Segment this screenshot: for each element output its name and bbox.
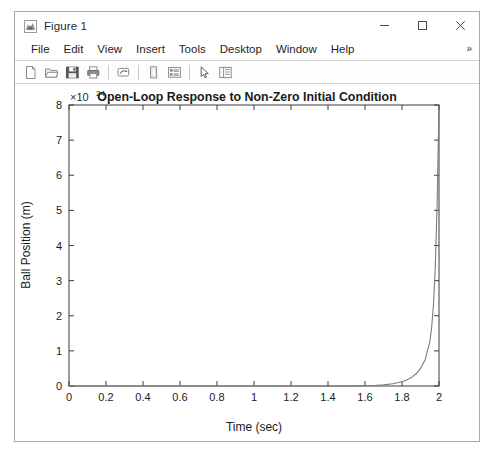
- x-tick-label: 0.8: [209, 391, 224, 403]
- chart-title: Open-Loop Response to Non-Zero Initial C…: [97, 90, 396, 104]
- x-tick-label: 1.4: [320, 391, 335, 403]
- x-tick-label: 1.8: [394, 391, 409, 403]
- y-tick-label: 4: [56, 240, 62, 252]
- menu-item-insert[interactable]: Insert: [129, 42, 172, 57]
- y-tick-label: 3: [56, 275, 62, 287]
- y-tick-label: 5: [56, 204, 62, 216]
- menu-item-edit[interactable]: Edit: [57, 42, 91, 57]
- x-axis-label: Time (sec): [226, 420, 282, 434]
- maximize-button[interactable]: [403, 12, 441, 39]
- y-tick-label: 2: [56, 310, 62, 322]
- print-figure-icon[interactable]: [83, 62, 103, 82]
- toolbar-separator-1: [108, 65, 109, 80]
- menu-overflow-icon[interactable]: »: [466, 43, 472, 54]
- y-tick-label: 7: [56, 134, 62, 146]
- save-figure-icon[interactable]: [62, 62, 82, 82]
- minimize-button[interactable]: [365, 12, 403, 39]
- insert-legend-icon[interactable]: [164, 62, 184, 82]
- axes-ticks: 00.20.40.60.811.21.41.61.82012345678: [56, 99, 442, 403]
- menu-item-desktop[interactable]: Desktop: [213, 42, 269, 57]
- y-tick-label: 6: [56, 169, 62, 181]
- matlab-membrane-icon: [24, 19, 37, 32]
- x-tick-label: 0.6: [172, 391, 187, 403]
- figure-window: Figure 1: [14, 11, 480, 442]
- series-line-ball-position: [69, 105, 439, 386]
- window-title: Figure 1: [44, 20, 87, 32]
- y-tick-label: 1: [56, 345, 62, 357]
- x-tick-label: 2: [436, 391, 442, 403]
- y-axis-exponent-base: ×10: [70, 91, 89, 103]
- y-axis-exponent-power: 24: [96, 89, 105, 98]
- link-plot-icon[interactable]: [113, 62, 133, 82]
- x-tick-label: 0: [66, 391, 72, 403]
- x-tick-label: 1: [251, 391, 257, 403]
- toolbar-separator-2: [138, 65, 139, 80]
- y-tick-label: 8: [56, 99, 62, 111]
- menu-item-file[interactable]: File: [24, 42, 57, 57]
- window-controls: [365, 12, 479, 39]
- matlab-axes: Open-Loop Response to Non-Zero Initial C…: [15, 84, 479, 438]
- toolbar: [15, 60, 479, 84]
- x-tick-label: 1.2: [283, 391, 298, 403]
- y-axis-label: Ball Position (m): [19, 201, 33, 288]
- window-titlebar: Figure 1: [15, 12, 479, 39]
- show-plot-tools-icon[interactable]: [215, 62, 235, 82]
- menu-item-help[interactable]: Help: [324, 42, 362, 57]
- edit-plot-icon[interactable]: [194, 62, 214, 82]
- menubar: File Edit View Insert Tools Desktop Wind…: [15, 39, 479, 60]
- open-file-icon[interactable]: [41, 62, 61, 82]
- x-tick-label: 0.4: [135, 391, 150, 403]
- figure-plot-area: Open-Loop Response to Non-Zero Initial C…: [15, 84, 479, 441]
- clipped-background-text: [182, 0, 494, 9]
- insert-colorbar-icon[interactable]: [143, 62, 163, 82]
- new-figure-icon[interactable]: [20, 62, 40, 82]
- screenshot-root: Figure 1: [0, 0, 494, 453]
- x-tick-label: 0.2: [98, 391, 113, 403]
- menu-item-window[interactable]: Window: [269, 42, 324, 57]
- toolbar-separator-3: [189, 65, 190, 80]
- close-button[interactable]: [441, 12, 479, 39]
- menu-item-view[interactable]: View: [90, 42, 129, 57]
- axes-box: [69, 105, 439, 386]
- y-tick-label: 0: [56, 380, 62, 392]
- x-tick-label: 1.6: [357, 391, 372, 403]
- menu-item-tools[interactable]: Tools: [172, 42, 213, 57]
